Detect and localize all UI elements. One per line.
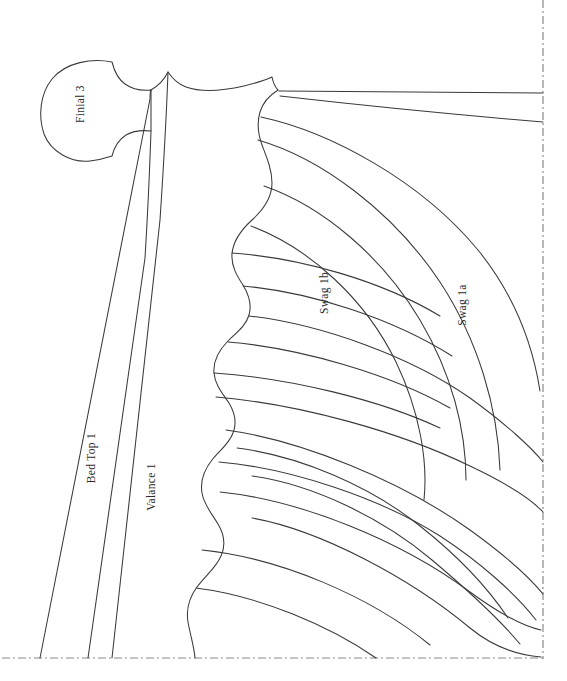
pattern-drawing: Finial 3 Bed Top 1 Valance 1 Swag 1b Swa… — [0, 0, 567, 681]
label-valance: Valance 1 — [145, 463, 157, 511]
label-swag-1a: Swag 1a — [456, 284, 469, 325]
label-bed-top: Bed Top 1 — [85, 433, 98, 483]
label-finial: Finial 3 — [74, 85, 86, 123]
label-swag-1b: Swag 1b — [318, 272, 331, 314]
pattern-page: Finial 3 Bed Top 1 Valance 1 Swag 1b Swa… — [0, 0, 567, 681]
